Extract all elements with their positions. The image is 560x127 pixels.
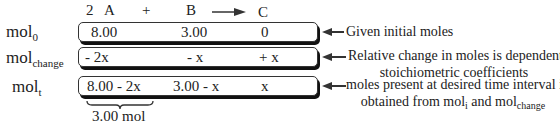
arrow-line	[330, 85, 346, 87]
change-moles-box: - 2x - x + x	[78, 47, 318, 67]
cell-b-change: - x	[187, 48, 203, 66]
note-initial: Given initial moles	[346, 23, 453, 40]
cell-a-time: 8.00 - 2x	[87, 77, 141, 95]
initial-moles-box: 8.00 3.00 0	[78, 22, 318, 42]
note-text: obtained from mol	[361, 94, 465, 109]
plus-sign: +	[142, 2, 150, 19]
row-label-mol-change: molchange	[6, 48, 64, 69]
cell-c-time: x	[261, 77, 269, 95]
coefficient-a: 2	[86, 2, 94, 19]
note-line: Relative change in moles is dependent on	[348, 47, 560, 64]
cell-c-change: + x	[259, 48, 279, 66]
cell-a-initial: 8.00	[91, 23, 117, 41]
label-main: mol	[6, 22, 32, 41]
note-line: obtained from moli and molchange	[346, 93, 560, 114]
label-main: mol	[6, 48, 32, 67]
time-moles-box: 8.00 - 2x 3.00 - x x	[78, 76, 318, 96]
cell-b-time: 3.00 - x	[173, 77, 219, 95]
species-c: C	[258, 4, 268, 21]
label-main: mol	[12, 77, 38, 96]
cell-a-change: - 2x	[85, 48, 109, 66]
label-sub: 0	[32, 31, 38, 43]
label-sub: t	[38, 86, 41, 98]
label-sub: change	[32, 57, 63, 69]
species-b: B	[186, 2, 196, 19]
row-label-mol-time: molt	[12, 77, 42, 98]
cell-b-initial: 3.00	[181, 23, 207, 41]
arrow-line	[330, 56, 346, 58]
species-a: A	[104, 2, 115, 19]
reaction-arrow-icon	[212, 7, 246, 17]
row-label-mol-initial: mol0	[6, 22, 38, 43]
arrow-line	[330, 31, 344, 33]
cell-c-initial: 0	[261, 23, 269, 41]
note-text: and mol	[468, 94, 517, 109]
note-sub: change	[517, 100, 545, 111]
brace-label: 3.00 mol	[92, 108, 145, 125]
note-time: moles present at desired time interval i…	[346, 76, 560, 114]
note-line: moles present at desired time interval i…	[346, 76, 560, 93]
